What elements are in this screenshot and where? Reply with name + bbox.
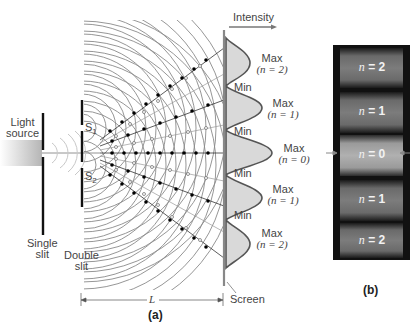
fringe-min-4: Min [234,210,252,221]
slit2-label: S2 [85,171,97,186]
fringe-min-1: Min [234,82,252,93]
fringe-max-n2-bottom: Max (n = 2) [254,228,290,250]
fringe-order: (n = 1) [265,195,301,206]
fringe-min-2: Min [234,126,252,137]
slit2-subscript: 2 [92,176,96,185]
screen-label: Screen [230,294,265,305]
constructive-points [108,58,210,249]
photo-band-n0: n = 0 [333,147,411,162]
fringe-order: (n = 2) [254,239,290,250]
screen-leader [227,282,236,293]
fringe-max-n1-bottom: Max (n = 1) [265,184,301,206]
fringe-order: (n = 2) [254,64,290,75]
photo-band-n2-bottom: n = 2 [333,233,411,248]
caption-b: (b) [363,283,378,297]
band-value: = 0 [365,147,385,161]
band-value: = 2 [365,60,385,74]
photo-band-n2-top: n = 2 [333,60,411,75]
light-source [0,140,42,166]
intensity-label: Intensity [233,12,274,23]
double-slit-label: Double slit [64,250,99,272]
fringe-max-n1-top: Max (n = 1) [265,98,301,120]
band-value: = 2 [365,233,385,247]
band-value: = 1 [365,192,385,206]
intensity-arrow [229,25,277,30]
double-slit-label-line2: slit [64,261,99,272]
caption-a: (a) [148,308,163,322]
light-source-label-line2: source [6,128,39,139]
single-slit-label-line2: slit [27,249,58,260]
fringe-max-n2-top: Max (n = 2) [254,53,290,75]
slit1-subscript: 1 [92,127,96,136]
photo-band-n1-top: n = 1 [333,104,411,119]
distance-label: L [149,294,155,305]
band-value: = 1 [365,104,385,118]
slit1-label: S1 [85,122,97,137]
light-source-label: Light source [6,117,39,139]
fringe-max-n0: Max (n = 0) [276,143,312,165]
single-slit-label: Single slit [27,238,58,260]
fringe-order: (n = 1) [265,109,301,120]
fringe-min-3: Min [234,168,252,179]
fringe-order: (n = 0) [276,154,312,165]
photo-band-n1-bottom: n = 1 [333,192,411,207]
